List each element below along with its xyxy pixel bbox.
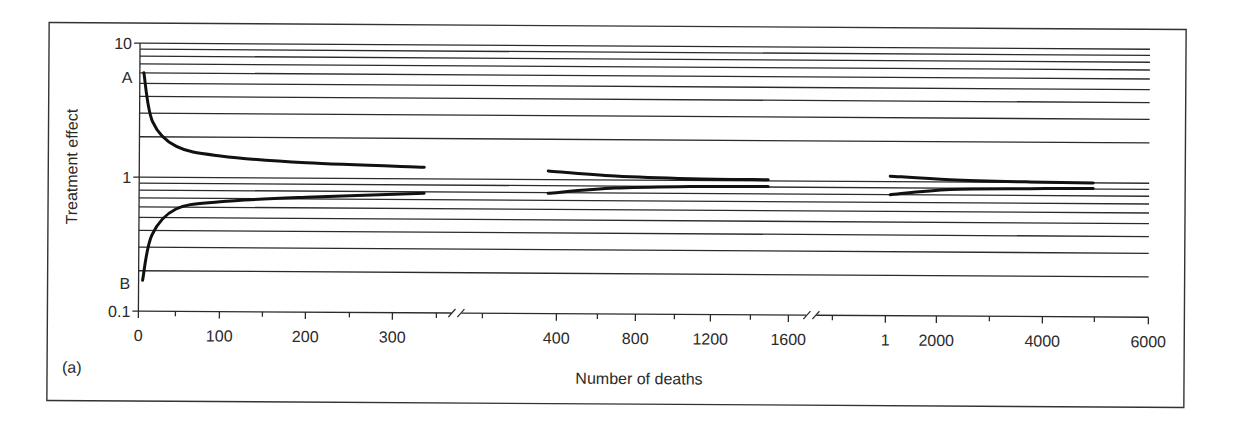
figure-frame bbox=[47, 23, 1186, 408]
gridline bbox=[139, 230, 1149, 236]
gridline bbox=[139, 190, 1149, 196]
x-tick-label: 2000 bbox=[918, 332, 954, 349]
x-tick-label: 400 bbox=[543, 330, 570, 347]
gridline bbox=[140, 96, 1150, 102]
gridline bbox=[139, 271, 1149, 277]
gridline bbox=[139, 247, 1149, 253]
panel-label: (a) bbox=[62, 359, 82, 376]
gridline bbox=[139, 137, 1149, 143]
gridline bbox=[139, 207, 1149, 213]
x-axis-title: Number of deaths bbox=[575, 370, 702, 388]
x-tick-label: 0 bbox=[134, 327, 143, 344]
boundary-curve bbox=[143, 73, 425, 167]
gridline bbox=[140, 43, 1150, 49]
y-tick-label: 0.1 bbox=[108, 303, 130, 320]
gridline bbox=[140, 64, 1150, 70]
point-label-b: B bbox=[120, 275, 131, 292]
y-tick-label: 1 bbox=[122, 169, 131, 186]
gridline bbox=[140, 113, 1150, 119]
gridline bbox=[140, 83, 1150, 89]
gridline bbox=[140, 56, 1150, 62]
boundary-curve bbox=[143, 192, 425, 282]
x-tick-label: 6000 bbox=[1130, 333, 1166, 350]
y-axis-title: Treatment effect bbox=[63, 108, 81, 224]
x-tick-label: 1 bbox=[881, 332, 890, 349]
x-tick-label: 200 bbox=[292, 328, 319, 345]
y-tick-label: 10 bbox=[114, 35, 132, 52]
point-label-a: A bbox=[122, 69, 133, 86]
gridline bbox=[139, 217, 1149, 223]
x-axis: 0100200300400800120016001200040006000 bbox=[134, 307, 1167, 350]
gridlines bbox=[139, 43, 1150, 277]
gridline bbox=[140, 73, 1150, 79]
chart-canvas: 0.1110 010020030040080012001600120004000… bbox=[0, 0, 1233, 430]
x-tick-label: 4000 bbox=[1024, 332, 1060, 349]
boundary-curve bbox=[548, 171, 768, 180]
x-tick-label: 300 bbox=[379, 329, 406, 346]
gridline bbox=[140, 49, 1150, 55]
x-tick-label: 1600 bbox=[770, 331, 806, 348]
x-tick-label: 800 bbox=[622, 330, 649, 347]
x-tick-label: 100 bbox=[206, 327, 233, 344]
x-tick-label: 1200 bbox=[692, 330, 728, 347]
